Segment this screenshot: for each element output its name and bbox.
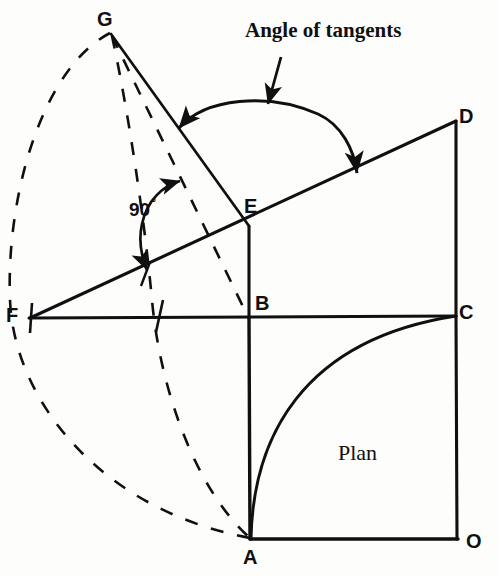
vertex-label-F: F (6, 305, 18, 325)
line-G-E (111, 34, 249, 226)
vertex-label-C: C (459, 302, 473, 322)
tick-at-F (30, 303, 32, 333)
diagram-canvas: G D E B F C A O Angle of tangents Plan 9… (0, 0, 498, 576)
line-F-C (29, 316, 456, 318)
annotation-angle-of-tangents: Angle of tangents (245, 20, 401, 41)
dashed-line-G-B (112, 36, 248, 317)
vertex-label-B: B (255, 293, 269, 313)
vertex-label-O: O (466, 531, 482, 551)
dashed-arc-outer-G-to-A (10, 33, 250, 538)
plan-quarter-arc-A-to-C (251, 316, 456, 539)
line-C-O (456, 316, 457, 539)
annotation-right-angle: 90° (129, 199, 155, 219)
line-B-A (249, 318, 250, 539)
angle-of-tangents-leader-arrow (268, 57, 281, 104)
right-angle-value: 90 (129, 199, 150, 220)
vertex-label-E: E (244, 196, 257, 216)
angle-of-tangents-arc[interactable] (179, 101, 357, 173)
degree-symbol: ° (151, 196, 156, 210)
dashed-arc-inner-G-to-A (112, 36, 250, 538)
geometry-svg (0, 0, 498, 576)
vertex-label-G: G (97, 9, 113, 29)
vertex-label-D: D (459, 106, 473, 126)
vertex-label-A: A (243, 547, 257, 567)
annotation-plan: Plan (338, 442, 377, 464)
